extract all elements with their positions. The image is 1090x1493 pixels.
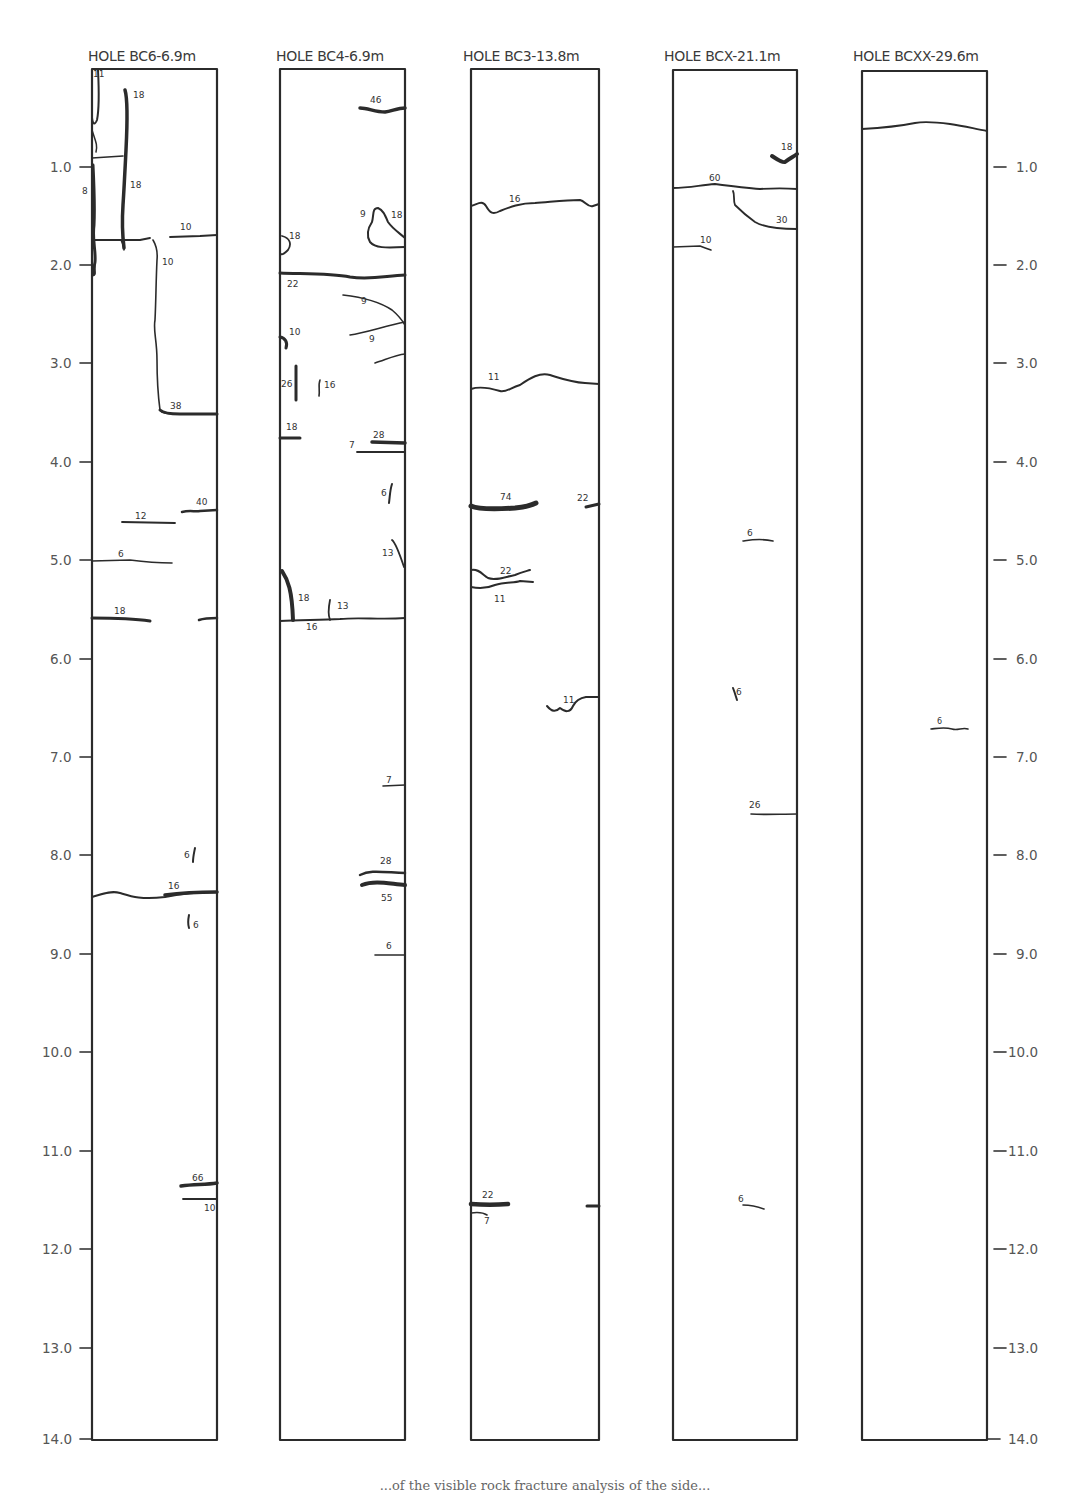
svg-text:6: 6	[736, 687, 742, 697]
fracture-labels-bcx: 18 60 30 10 6 6 26 6	[700, 142, 793, 1204]
svg-text:18: 18	[781, 142, 793, 152]
svg-text:7: 7	[484, 1216, 490, 1226]
svg-text:6: 6	[738, 1194, 744, 1204]
core-box-bcxx	[862, 71, 987, 1440]
svg-text:26: 26	[749, 800, 761, 810]
fracture-labels-bc4: 46 9 18 18 22 9 9 10 26 16 18 28 7 6 13 …	[281, 95, 403, 951]
svg-text:7: 7	[386, 775, 392, 785]
svg-text:6: 6	[937, 717, 942, 726]
svg-text:7: 7	[349, 440, 355, 450]
svg-text:22: 22	[500, 566, 511, 576]
svg-text:11: 11	[563, 695, 574, 705]
svg-text:9: 9	[369, 334, 375, 344]
svg-text:6: 6	[184, 850, 190, 860]
svg-text:11: 11	[93, 69, 104, 79]
svg-text:74: 74	[500, 492, 512, 502]
svg-text:10: 10	[700, 235, 712, 245]
svg-text:38: 38	[170, 401, 182, 411]
svg-text:10: 10	[289, 327, 301, 337]
svg-text:18: 18	[130, 180, 142, 190]
svg-text:22: 22	[577, 493, 588, 503]
svg-text:16: 16	[306, 622, 318, 632]
svg-text:16: 16	[324, 380, 336, 390]
svg-text:16: 16	[168, 881, 180, 891]
svg-text:18: 18	[286, 422, 298, 432]
fracture-log-svg: 11 18 18 8 10 10 38 40 12 6 18 6 16 6 66…	[0, 0, 1090, 1493]
borehole-diagram: HOLE BC6-6.9m HOLE BC4-6.9m HOLE BC3-13.…	[0, 0, 1090, 1493]
svg-text:18: 18	[298, 593, 310, 603]
svg-text:9: 9	[361, 296, 367, 306]
svg-text:28: 28	[373, 430, 385, 440]
svg-text:6: 6	[381, 488, 387, 498]
svg-text:8: 8	[82, 186, 88, 196]
svg-text:66: 66	[192, 1173, 204, 1183]
svg-text:18: 18	[133, 90, 145, 100]
svg-text:55: 55	[381, 893, 392, 903]
svg-text:60: 60	[709, 173, 721, 183]
svg-text:6: 6	[747, 528, 753, 538]
svg-text:30: 30	[776, 215, 788, 225]
svg-text:10: 10	[162, 257, 174, 267]
fractures-bcxx	[862, 122, 987, 730]
svg-text:22: 22	[287, 279, 298, 289]
core-box-bcx	[673, 70, 797, 1440]
svg-text:6: 6	[118, 549, 124, 559]
svg-text:11: 11	[494, 594, 505, 604]
svg-text:40: 40	[196, 497, 208, 507]
left-axis-ticks	[80, 167, 92, 1439]
fractures-bc6	[92, 70, 217, 1199]
svg-text:26: 26	[281, 379, 293, 389]
svg-text:12: 12	[135, 511, 146, 521]
core-box-bc6	[92, 69, 217, 1440]
right-axis-ticks	[988, 167, 1006, 1439]
svg-text:9: 9	[360, 209, 366, 219]
svg-text:6: 6	[386, 941, 392, 951]
svg-text:22: 22	[482, 1190, 493, 1200]
figure-caption: ...of the visible rock fracture analysis…	[0, 1478, 1090, 1493]
fractures-bc3	[471, 200, 599, 1215]
fractures-bcx	[673, 154, 797, 1209]
svg-text:16: 16	[509, 194, 521, 204]
svg-text:18: 18	[391, 210, 403, 220]
svg-text:10: 10	[204, 1203, 216, 1213]
fracture-labels-bcxx: 6	[937, 717, 942, 726]
svg-text:13: 13	[337, 601, 348, 611]
fracture-labels-bc3: 16 11 74 22 22 11 11 22 7	[482, 194, 588, 1226]
svg-text:13: 13	[382, 548, 393, 558]
svg-text:10: 10	[180, 222, 192, 232]
svg-text:18: 18	[289, 231, 301, 241]
svg-text:28: 28	[380, 856, 392, 866]
svg-text:18: 18	[114, 606, 126, 616]
svg-text:46: 46	[370, 95, 382, 105]
core-box-bc3	[471, 69, 599, 1440]
svg-text:11: 11	[488, 372, 499, 382]
svg-text:6: 6	[193, 920, 199, 930]
